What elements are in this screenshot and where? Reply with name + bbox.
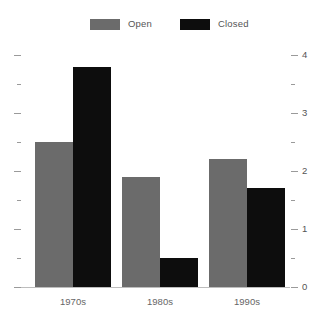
y-left-tick-3.5 [17, 84, 21, 85]
y-right-tick-3.5 [291, 84, 295, 85]
y-left-tick-3 [14, 113, 21, 114]
y-left-tick-1 [14, 229, 21, 230]
bar-closed-1980s[interactable] [160, 258, 198, 287]
x-tick-label-1970s: 1970s [43, 297, 103, 307]
y-right-tick-2 [291, 171, 298, 172]
y-tick-label-0: 0 [302, 282, 307, 292]
y-left-tick-2 [14, 171, 21, 172]
y-tick-label-2: 2 [302, 166, 307, 176]
y-tick-label-3: 3 [302, 108, 307, 118]
bar-open-1980s[interactable] [122, 177, 160, 287]
y-left-tick-1.5 [17, 200, 21, 201]
y-right-tick-4 [291, 55, 298, 56]
y-right-tick-0 [291, 287, 298, 288]
y-left-tick-4 [14, 55, 21, 56]
y-left-tick-2.5 [17, 142, 21, 143]
y-left-tick-0 [14, 287, 21, 288]
y-tick-label-1: 1 [302, 224, 307, 234]
x-tick-label-1990s: 1990s [217, 297, 277, 307]
bar-closed-1970s[interactable] [73, 67, 111, 287]
x-tick-label-1980s: 1980s [130, 297, 190, 307]
plot-area: 01234 1970s 1980s 1990s [0, 0, 320, 322]
y-right-tick-0.5 [291, 258, 295, 259]
y-right-tick-1 [291, 229, 298, 230]
y-right-tick-3 [291, 113, 298, 114]
y-right-tick-1.5 [291, 200, 295, 201]
bar-open-1970s[interactable] [35, 142, 73, 287]
bar-open-1990s[interactable] [209, 159, 247, 287]
y-left-tick-0.5 [17, 258, 21, 259]
y-right-tick-2.5 [291, 142, 295, 143]
y-tick-label-4: 4 [302, 50, 307, 60]
bar-chart: Open Closed 01234 1970s 1980s 1990s [0, 0, 320, 322]
x-axis-baseline [14, 287, 290, 288]
bar-closed-1990s[interactable] [247, 188, 285, 287]
